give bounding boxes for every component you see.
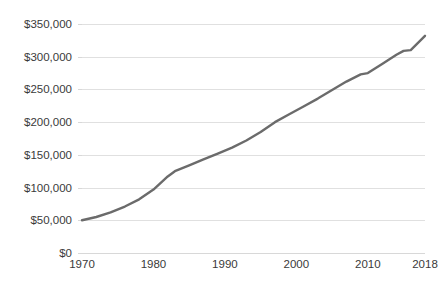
y-axis-tick-label: $50,000 xyxy=(30,214,72,226)
y-axis-labels: $0$50,000$100,000$150,000$200,000$250,00… xyxy=(24,18,72,259)
axis-tick-marks xyxy=(78,25,82,254)
y-axis-tick-label: $150,000 xyxy=(24,149,72,161)
x-axis-tick-label: 2018 xyxy=(412,258,438,270)
y-axis-tick-label: $200,000 xyxy=(24,116,72,128)
y-axis-tick-label: $350,000 xyxy=(24,18,72,30)
data-series xyxy=(82,36,425,221)
y-axis-tick-label: $0 xyxy=(59,247,72,259)
x-axis-tick-label: 1970 xyxy=(69,258,95,270)
x-axis-labels: 197019801990200020102018 xyxy=(69,258,438,270)
series-line xyxy=(82,36,425,221)
y-axis-tick-label: $250,000 xyxy=(24,83,72,95)
line-chart: $0$50,000$100,000$150,000$200,000$250,00… xyxy=(0,0,440,289)
x-axis-tick-label: 1980 xyxy=(141,258,167,270)
gridlines xyxy=(82,25,425,254)
x-axis-tick-label: 2010 xyxy=(355,258,381,270)
x-axis-tick-label: 1990 xyxy=(212,258,238,270)
y-axis-tick-label: $300,000 xyxy=(24,51,72,63)
y-axis-tick-label: $100,000 xyxy=(24,182,72,194)
x-axis-tick-label: 2000 xyxy=(284,258,310,270)
chart-canvas: $0$50,000$100,000$150,000$200,000$250,00… xyxy=(0,0,440,289)
